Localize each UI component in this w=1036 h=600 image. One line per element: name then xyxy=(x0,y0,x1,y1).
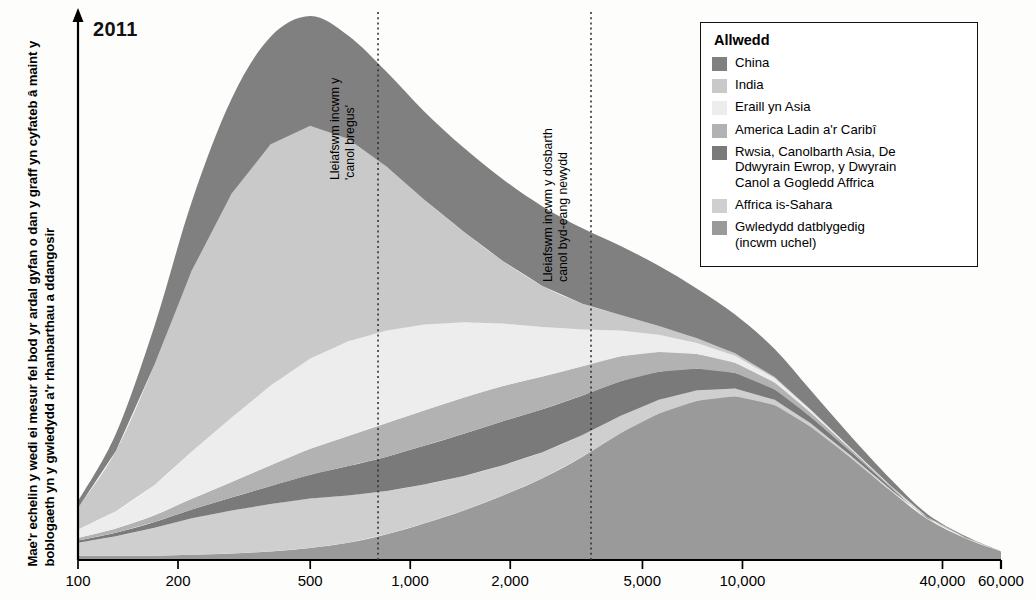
x-axis-tick-label: 5,000 xyxy=(624,572,662,589)
legend-swatch-icon xyxy=(712,57,727,71)
x-axis-tick-label: 500 xyxy=(298,572,323,589)
x-axis-tick-label: 60,000 xyxy=(978,572,1024,589)
legend-item[interactable]: Gwledydd datblygedig (incwm uchel) xyxy=(712,219,967,250)
legend-items: ChinaIndiaEraill yn AsiaAmerica Ladin a'… xyxy=(712,55,967,250)
legend-swatch-icon xyxy=(712,79,727,93)
legend-item-label: India xyxy=(735,77,764,93)
annotation-fragile-middle-income: Lleiafswm incwm y 'canol bregus' xyxy=(328,20,357,180)
legend-item[interactable]: China xyxy=(712,55,967,71)
legend-box: Allwedd ChinaIndiaEraill yn AsiaAmerica … xyxy=(700,22,978,267)
x-axis-tick-label: 2,000 xyxy=(491,572,529,589)
annotation-global-middle-class-income: Lleiafswm incwm y dosbarth canol byd-ean… xyxy=(541,20,570,282)
x-axis-tick-label: 10,000 xyxy=(720,572,766,589)
legend-swatch-icon xyxy=(712,199,727,213)
legend-item-label: China xyxy=(735,55,769,71)
y-axis-label: Mae'r echelin y wedi ei mesur fel bod yr… xyxy=(25,29,58,569)
legend-item-label: Gwledydd datblygedig (incwm uchel) xyxy=(735,219,865,250)
legend-item-label: Rwsia, Canolbarth Asia, De Ddwyrain Ewro… xyxy=(735,144,896,191)
legend-swatch-icon xyxy=(712,101,727,115)
legend-item[interactable]: Affrica is-Sahara xyxy=(712,197,967,213)
legend-item[interactable]: Eraill yn Asia xyxy=(712,99,967,115)
x-axis-tick-label: 100 xyxy=(66,572,91,589)
legend-swatch-icon xyxy=(712,221,727,235)
legend-swatch-icon xyxy=(712,124,727,138)
legend-item-label: Eraill yn Asia xyxy=(735,99,811,115)
chart-year-title: 2011 xyxy=(93,18,138,41)
chart-canvas: Mae'r echelin y wedi ei mesur fel bod yr… xyxy=(0,0,1036,600)
legend-item[interactable]: America Ladin a'r Caribî xyxy=(712,122,967,138)
y-axis-arrow-icon xyxy=(73,8,84,22)
x-axis-tick-label: 200 xyxy=(166,572,191,589)
legend-item[interactable]: Rwsia, Canolbarth Asia, De Ddwyrain Ewro… xyxy=(712,144,967,191)
legend-item-label: America Ladin a'r Caribî xyxy=(735,122,876,138)
legend-title: Allwedd xyxy=(714,32,967,48)
legend-item[interactable]: India xyxy=(712,77,967,93)
x-axis-tick-label: 1,000 xyxy=(391,572,429,589)
x-axis-tick-label: 40,000 xyxy=(920,572,966,589)
legend-item-label: Affrica is-Sahara xyxy=(735,197,832,213)
legend-swatch-icon xyxy=(712,146,727,160)
y-axis-label-text: Mae'r echelin y wedi ei mesur fel bod yr… xyxy=(25,29,58,569)
